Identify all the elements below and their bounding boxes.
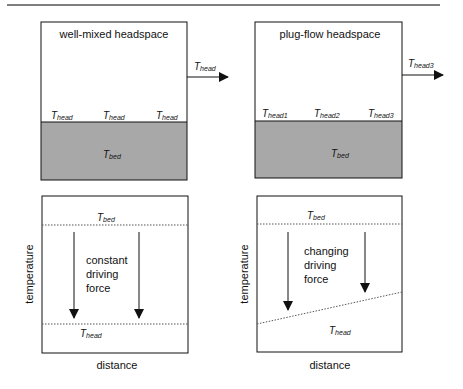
panel-title: well-mixed headspace bbox=[59, 28, 169, 40]
annotation-line-2: driving bbox=[304, 259, 336, 271]
headspace-diagram: well-mixed headspace Thead Thead Thead T… bbox=[0, 0, 463, 389]
head-temperature-label: Thead bbox=[329, 325, 352, 336]
annotation-line-1: changing bbox=[304, 245, 349, 257]
bed-region bbox=[41, 122, 187, 180]
annotation-line-2: driving bbox=[86, 268, 118, 280]
surface-label-1: Thead1 bbox=[262, 108, 288, 119]
panel-title: plug-flow headspace bbox=[280, 28, 381, 40]
surface-label-1: Thead bbox=[51, 110, 74, 121]
annotation-line-3: force bbox=[86, 282, 110, 294]
head-temperature-label: Thead bbox=[80, 328, 103, 339]
bed-temperature-label: Tbed bbox=[307, 210, 326, 221]
bed-region bbox=[255, 121, 402, 178]
surface-label-2: Thead2 bbox=[314, 108, 340, 119]
bed-temperature-label: Tbed bbox=[97, 212, 116, 223]
well-mixed-panel: well-mixed headspace Thead Thead Thead T… bbox=[41, 22, 228, 180]
surface-label-3: Thead3 bbox=[368, 108, 394, 119]
head-temperature-line bbox=[257, 292, 402, 324]
outlet-label: Thead bbox=[194, 61, 217, 72]
plug-flow-panel: plug-flow headspace Thead3 Thead1 Thead2… bbox=[255, 22, 443, 178]
changing-driving-force-plot: Tbed Thead changing driving force temper… bbox=[238, 196, 402, 371]
annotation-line-3: force bbox=[304, 273, 328, 285]
y-axis-label: temperature bbox=[23, 244, 35, 303]
outlet-label: Thead3 bbox=[408, 58, 434, 69]
y-axis-label: temperature bbox=[238, 244, 250, 303]
x-axis-label: distance bbox=[310, 359, 351, 371]
constant-driving-force-plot: Tbed Thead constant driving force temper… bbox=[23, 196, 188, 371]
x-axis-label: distance bbox=[97, 359, 138, 371]
annotation-line-1: constant bbox=[86, 254, 128, 266]
surface-label-3: Thead bbox=[156, 110, 179, 121]
surface-label-2: Thead bbox=[103, 110, 126, 121]
